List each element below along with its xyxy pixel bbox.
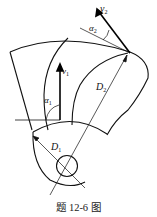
outer-arc [10,41,130,52]
right-casing [107,52,148,135]
label-D2: D2 [95,81,106,93]
alpha1-arc [46,105,59,120]
alpha2-arc [103,30,109,40]
hub-arc [33,121,107,134]
label-v2: v2 [100,3,107,15]
impeller-diagram: v2 α2 v1 α1 D2 D1 [0,0,157,217]
d2-dimension-line [50,55,127,195]
label-v1: v1 [62,66,69,77]
d2-arrowhead-icon [123,55,127,62]
label-alpha2: α2 [89,23,97,34]
v2-vector [99,12,130,53]
d1-arrowhead-icon [33,136,39,141]
shaft-circle [57,156,78,177]
label-D1: D1 [50,141,61,153]
label-alpha1: α1 [44,95,52,106]
tangent-line [80,28,130,53]
left-edge [10,52,32,130]
figure-caption: 题 12-6 图 [0,199,157,214]
blade-left [44,38,68,130]
